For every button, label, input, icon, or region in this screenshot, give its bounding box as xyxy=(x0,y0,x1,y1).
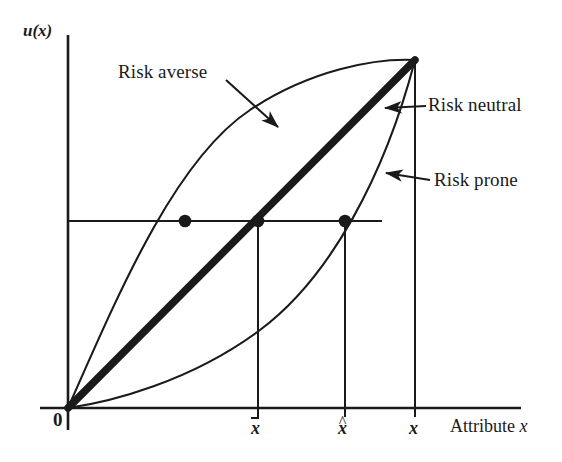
x-axis-label-text: Attribute xyxy=(450,416,515,436)
overbar-accent xyxy=(251,417,259,419)
x-bar-letter: x xyxy=(251,418,260,438)
leader-risk-prone xyxy=(386,173,430,180)
marker-risk-prone xyxy=(339,215,352,228)
marker-risk-neutral xyxy=(252,215,265,228)
leader-risk-averse xyxy=(226,80,278,127)
figure-canvas xyxy=(0,0,562,462)
circumflex-accent: ^ xyxy=(339,414,347,430)
x-axis-label-variable: x xyxy=(520,416,528,436)
utility-function-figure: u(x) 0 x ^ x x Attribute x Risk averse R… xyxy=(0,0,562,462)
x-hat-glyph: ^ x xyxy=(338,419,347,437)
callout-risk-prone: Risk prone xyxy=(434,170,518,189)
callout-risk-averse: Risk averse xyxy=(118,62,207,81)
x-axis-label: Attribute x xyxy=(450,417,528,435)
curve-risk-neutral xyxy=(68,60,415,408)
marker-risk-averse xyxy=(179,215,192,228)
x-axis-tick-label-x-max: x xyxy=(409,419,418,437)
y-axis-label: u(x) xyxy=(23,22,52,39)
origin-label: 0 xyxy=(53,410,63,429)
x-bar-glyph: x xyxy=(251,419,260,437)
callout-risk-neutral: Risk neutral xyxy=(428,95,522,114)
x-axis-tick-label-x-bar: x xyxy=(251,419,260,437)
x-axis-tick-label-x-hat: ^ x xyxy=(338,419,347,437)
leader-risk-neutral xyxy=(385,106,426,108)
